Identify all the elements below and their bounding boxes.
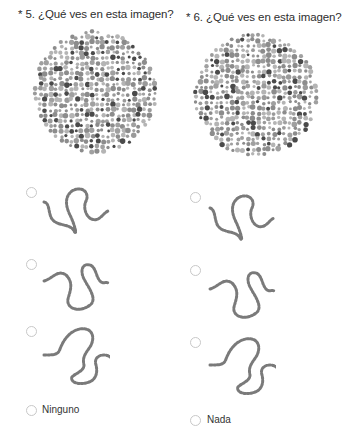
ishihara-plate-icon	[32, 29, 158, 155]
option-label-ninguno[interactable]: Ninguno	[42, 404, 79, 415]
squiggle-path-option-3-icon[interactable]	[40, 325, 110, 391]
squiggle-path-option-1-icon[interactable]	[206, 190, 276, 252]
option-radio-ninguno[interactable]	[26, 405, 37, 416]
squiggle-path-option-2-icon[interactable]	[206, 263, 276, 325]
option-radio-nada[interactable]	[190, 415, 201, 426]
squiggle-path-option-2-icon[interactable]	[40, 255, 110, 317]
option-radio-2[interactable]	[190, 265, 201, 276]
option-radio-3[interactable]	[190, 337, 201, 348]
ishihara-plate-icon	[193, 32, 319, 158]
question-5-title: * 5. ¿Qué ves en esta imagen?	[18, 8, 174, 20]
option-radio-1[interactable]	[190, 192, 201, 203]
option-label-nada[interactable]: Nada	[207, 414, 231, 425]
option-radio-2[interactable]	[26, 259, 37, 270]
squiggle-path-option-1-icon[interactable]	[40, 183, 110, 245]
option-radio-3[interactable]	[26, 326, 37, 337]
squiggle-path-option-3-icon[interactable]	[206, 335, 276, 401]
question-6-title: * 6. ¿Qué ves en esta imagen?	[186, 11, 342, 23]
option-radio-1[interactable]	[26, 187, 37, 198]
